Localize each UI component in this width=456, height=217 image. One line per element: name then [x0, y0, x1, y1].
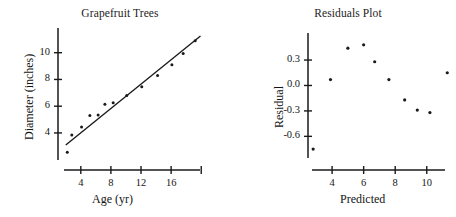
x-tick-label: 16 — [151, 177, 191, 188]
y-tick-label: 6 — [10, 99, 50, 110]
data-point — [140, 85, 143, 88]
y-tick-label: 8 — [10, 72, 50, 83]
data-point — [182, 52, 185, 55]
y-tick-label: -0.6 — [260, 129, 300, 140]
data-point — [66, 151, 69, 154]
data-point-group — [66, 39, 197, 154]
data-point — [428, 111, 431, 114]
data-point — [373, 60, 376, 63]
data-point — [156, 74, 159, 77]
data-point — [112, 101, 115, 104]
data-point — [446, 71, 449, 74]
residuals-x-axis-label: Predicted — [340, 192, 385, 207]
data-point — [88, 114, 91, 117]
y-tick-label: 4 — [10, 126, 50, 137]
y-tick-label: -0.3 — [260, 104, 300, 115]
statistics-figure: Grapefruit Trees Diameter (inches) Age (… — [0, 0, 456, 217]
x-tick-label: 10 — [407, 177, 447, 188]
data-point — [403, 98, 406, 101]
data-point — [80, 125, 83, 128]
data-point — [70, 133, 73, 136]
data-point — [346, 47, 349, 50]
data-point — [125, 94, 128, 97]
data-point-group — [312, 43, 449, 150]
y-tick-label: 10 — [10, 46, 50, 57]
y-tick-label: 0.0 — [260, 78, 300, 89]
data-point — [387, 78, 390, 81]
data-point — [416, 108, 419, 111]
residuals-chart-panel: Residuals Plot Residual Predicted 0.30.0… — [240, 0, 456, 217]
grapefruit-x-axis-label: Age (yr) — [92, 192, 133, 207]
data-point — [312, 147, 315, 150]
data-point — [103, 103, 106, 106]
grapefruit-trees-chart-panel: Grapefruit Trees Diameter (inches) Age (… — [0, 0, 240, 217]
data-point — [194, 39, 197, 42]
y-tick-label: 0.3 — [260, 53, 300, 64]
data-point — [362, 43, 365, 46]
data-point — [329, 78, 332, 81]
regression-line — [66, 36, 201, 145]
data-point — [97, 113, 100, 116]
data-point — [170, 63, 173, 66]
